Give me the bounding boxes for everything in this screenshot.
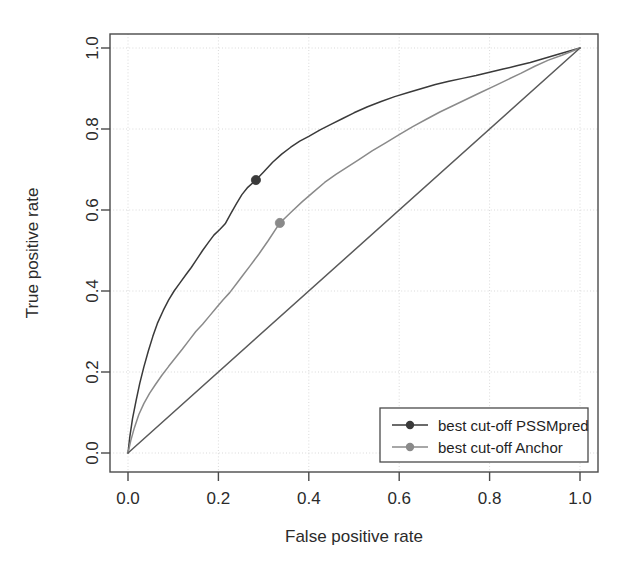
legend-marker-icon-0: [406, 421, 414, 429]
roc-plot-svg: 0.00.20.40.60.81.0 0.00.20.40.60.81.0 Fa…: [0, 0, 634, 567]
y-tick-label-0.4: 0.4: [83, 279, 102, 303]
y-axis-title: True positive rate: [23, 188, 42, 319]
y-tick-label-0.8: 0.8: [83, 117, 102, 141]
x-tick-label-0.8: 0.8: [478, 489, 502, 508]
y-tick-label-0.2: 0.2: [83, 360, 102, 384]
x-axis-title: False positive rate: [285, 527, 423, 546]
roc-chart-figure: 0.00.20.40.60.81.0 0.00.20.40.60.81.0 Fa…: [0, 0, 634, 567]
cutoff-marker-anchor: [275, 218, 284, 227]
y-tick-label-0.0: 0.0: [83, 441, 102, 465]
x-tick-label-0.0: 0.0: [116, 489, 140, 508]
x-tick-label-0.6: 0.6: [387, 489, 411, 508]
legend-label-1: best cut-off Anchor: [438, 439, 563, 456]
y-tick-label-1.0: 1.0: [83, 36, 102, 60]
x-tick-label-0.2: 0.2: [207, 489, 231, 508]
legend: best cut-off PSSMpredbest cut-off Anchor: [380, 408, 589, 462]
x-tick-label-0.4: 0.4: [297, 489, 321, 508]
cutoff-marker-pssmpred: [251, 175, 260, 184]
legend-label-0: best cut-off PSSMpred: [438, 417, 589, 434]
x-tick-label-1.0: 1.0: [568, 489, 592, 508]
y-tick-label-0.6: 0.6: [83, 198, 102, 222]
legend-marker-icon-1: [406, 443, 414, 451]
